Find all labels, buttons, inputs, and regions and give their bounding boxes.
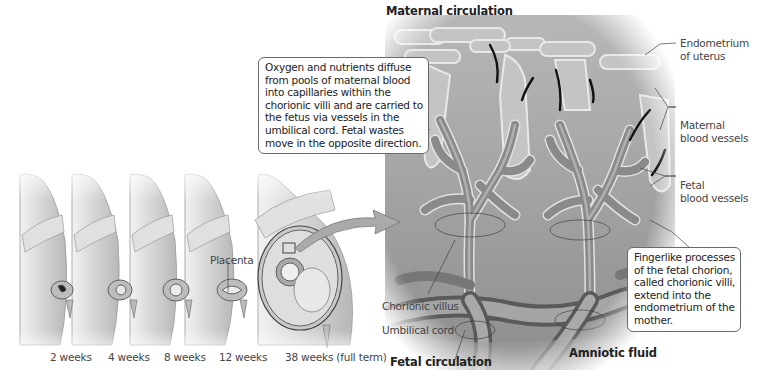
chorionic-villus-label: Chorionic villus — [382, 300, 459, 313]
pregnancy-stages-illustration — [20, 174, 353, 348]
stage-label-12-weeks: 12 weeks — [219, 351, 267, 363]
placenta-diagram: Maternal circulation Fetal circulation A… — [0, 0, 763, 381]
diffusion-callout: Oxygen and nutrients diffuse from pools … — [258, 57, 429, 154]
endometrium-label: Endometrium of uterus — [680, 37, 749, 63]
fetal-circulation-heading: Fetal circulation — [390, 355, 492, 369]
placenta-label: Placenta — [210, 254, 254, 267]
stage-label-8-weeks: 8 weeks — [164, 351, 206, 363]
maternal-blood-vessels-label: Maternal blood vessels — [680, 119, 748, 145]
chorionic-villi-callout: Fingerlike processes of the fetal chorio… — [627, 247, 741, 332]
amniotic-fluid-heading: Amniotic fluid — [569, 346, 657, 360]
stage-label-2-weeks: 2 weeks — [50, 351, 92, 363]
stage-label-38-weeks: 38 weeks (full term) — [285, 351, 387, 363]
maternal-circulation-heading: Maternal circulation — [386, 4, 513, 18]
stage-label-4-weeks: 4 weeks — [108, 351, 150, 363]
umbilical-cord-label: Umbilical cord — [382, 324, 454, 337]
fetal-blood-vessels-label: Fetal blood vessels — [680, 179, 748, 205]
